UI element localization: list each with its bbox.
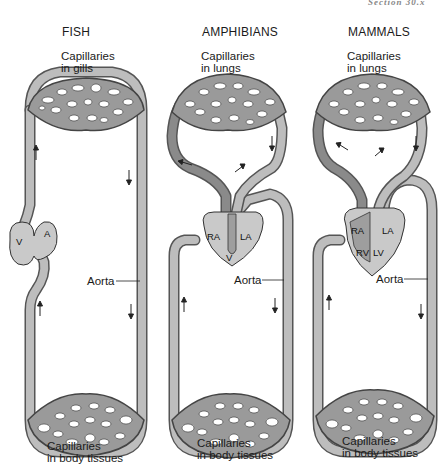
amphibian-ra-label: RA <box>207 231 221 242</box>
mammals-top-capillaries-line2: in lungs <box>347 62 387 74</box>
mammal-ra-label: RA <box>351 225 365 236</box>
fish-atrium-label: A <box>44 228 51 239</box>
fish-ventricle-label: V <box>16 236 23 247</box>
amphibian-la-label: LA <box>240 231 252 242</box>
mammal-lung-capillary-bed <box>316 74 430 131</box>
mammals-bottom-capillaries-line2: in body tissues <box>342 447 418 459</box>
mammals-aorta-label: Aorta <box>376 273 404 285</box>
amphibian-circuit: RA LA V <box>172 74 290 458</box>
fish-bottom-capillaries-line1: Capillaries <box>47 440 101 452</box>
mammal-circuit: RA LA RV LV <box>316 74 434 454</box>
fish-title: FISH <box>62 26 90 38</box>
amphibian-v-label: V <box>226 252 233 263</box>
mammals-title: MAMMALS <box>348 26 410 38</box>
amphibian-lung-capillary-bed <box>172 74 286 131</box>
fish-aorta-label: Aorta <box>87 275 115 287</box>
fish-bottom-capillaries-line2: in body tissues <box>47 452 123 464</box>
amphibians-aorta-label: Aorta <box>234 274 262 286</box>
amphibians-top-capillaries-line1: Capillaries <box>201 50 255 62</box>
fish-top-capillaries-line2: in gills <box>61 62 93 74</box>
mammal-lv-label: LV <box>373 247 385 258</box>
fish-top-capillaries-line1: Capillaries <box>61 50 115 62</box>
gill-capillary-bed <box>28 78 144 131</box>
mammal-rv-label: RV <box>356 247 370 258</box>
mammal-la-label: LA <box>382 225 394 236</box>
fish-circuit: V A <box>10 72 144 456</box>
amphibians-bottom-capillaries-line2: in body tissues <box>197 449 273 461</box>
amphibians-title: AMPHIBIANS <box>202 26 278 38</box>
mammals-top-capillaries-line1: Capillaries <box>347 50 401 62</box>
mammals-bottom-capillaries-line1: Capillaries <box>342 435 396 447</box>
amphibians-bottom-capillaries-line1: Capillaries <box>197 437 251 449</box>
amphibians-top-capillaries-line2: in lungs <box>201 62 241 74</box>
